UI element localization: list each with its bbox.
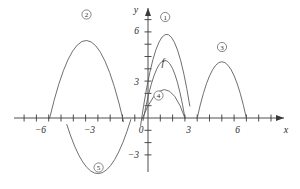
y-tick-label-neg3: −3	[128, 150, 139, 160]
x-tick-label-neg3: −3	[84, 125, 95, 135]
curve-label-3: 3	[217, 42, 226, 51]
curve-label-4-text: 4	[157, 92, 161, 100]
curve-label-5-text: 5	[97, 164, 101, 172]
curve-label-4: 4	[154, 91, 163, 100]
curve-2-path	[50, 40, 124, 121]
y-tick-label-6: 6	[134, 26, 139, 36]
x-tick-label-neg6: −6	[35, 125, 46, 135]
graph-figure: −6 −3 3 6 6 3 −3 0 x y 2 5	[0, 0, 300, 189]
y-axis-label: y	[133, 4, 139, 15]
y-axis-arrow-icon	[145, 8, 151, 16]
curve-label-2-text: 2	[85, 11, 89, 19]
curve-label-5: 5	[94, 163, 103, 172]
curve-label-2: 2	[82, 10, 91, 19]
curve-label-1-text: 1	[163, 14, 167, 22]
x-tick-label-6: 6	[235, 125, 240, 135]
x-axis-arrow-icon	[276, 115, 284, 121]
x-axis-label: x	[283, 124, 289, 135]
origin-label: 0	[139, 125, 144, 135]
x-tick-label-3: 3	[185, 125, 191, 135]
coordinate-plot: −6 −3 3 6 6 3 −3 0 x y 2 5	[0, 0, 300, 189]
curve-label-3-text: 3	[220, 44, 224, 52]
axis-group	[14, 8, 284, 172]
y-tick-label-3: 3	[133, 77, 139, 87]
curve-label-f-text: f	[162, 57, 166, 68]
curve-3-path	[197, 62, 246, 119]
curve-label-1: 1	[161, 12, 170, 21]
